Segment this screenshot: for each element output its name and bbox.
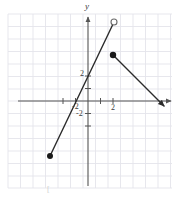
closed-point-lower-left: [47, 153, 53, 159]
caption-mark: [: [47, 185, 50, 194]
coordinate-plane-svg: [0, 0, 178, 198]
plot-background: [0, 0, 178, 198]
y-axis-label: y: [85, 2, 89, 11]
y-tick-label-minus-2: -2: [76, 110, 83, 118]
open-point-upper: [111, 19, 117, 25]
y-tick-label-2: 2: [80, 70, 84, 78]
closed-point-middle: [110, 52, 116, 58]
x-tick-label-2: 2: [111, 104, 115, 112]
graph-figure: y 2 -2 2 -2 [: [0, 0, 178, 198]
